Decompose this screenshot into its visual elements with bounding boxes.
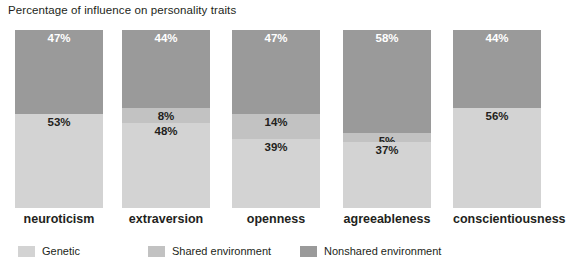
bar-segment-shared[interactable]: 14% (232, 114, 320, 139)
bar-group[interactable]: 47%14%39% (232, 30, 320, 208)
chart-figure: Percentage of influence on personality t… (0, 0, 581, 273)
segment-value-label: 58% (343, 32, 431, 45)
bar-segment-nonshared[interactable]: 58% (343, 30, 431, 133)
legend-label: Nonshared environment (324, 245, 441, 257)
bar-segment-shared[interactable]: 8% (122, 108, 210, 122)
segment-value-label: 56% (453, 110, 541, 123)
chart-legend: GeneticShared environmentNonshared envir… (0, 243, 581, 263)
bar-segment-genetic[interactable]: 56% (453, 108, 541, 208)
category-label-openness: openness (232, 212, 320, 226)
bar-segment-nonshared[interactable]: 47% (232, 30, 320, 114)
bar-segment-genetic[interactable]: 37% (343, 142, 431, 208)
segment-value-label: 47% (232, 32, 320, 45)
chart-title: Percentage of influence on personality t… (8, 4, 236, 16)
bar-segment-genetic[interactable]: 48% (122, 123, 210, 208)
segment-value-label: 37% (343, 144, 431, 157)
segment-value-label: 39% (232, 141, 320, 154)
segment-value-label: 44% (122, 32, 210, 45)
bar-stack: 47%53% (15, 30, 103, 208)
category-label-extraversion: extraversion (122, 212, 210, 226)
legend-swatch-icon (18, 246, 35, 257)
legend-item[interactable]: Nonshared environment (300, 243, 441, 259)
category-label-conscientiousness: conscientiousness (453, 212, 541, 226)
bar-stack: 44%8%48% (122, 30, 210, 208)
plot-area: 47%53%44%8%48%47%14%39%58%5%37%44%56% (0, 30, 581, 208)
segment-value-label: 48% (122, 125, 210, 138)
bar-segment-shared[interactable]: 5% (343, 133, 431, 142)
bar-group[interactable]: 47%53% (15, 30, 103, 208)
legend-label: Shared environment (172, 245, 271, 257)
bar-segment-nonshared[interactable]: 47% (15, 30, 103, 114)
legend-label: Genetic (42, 245, 80, 257)
category-label-neuroticism: neuroticism (15, 212, 103, 226)
category-label-agreeableness: agreeableness (343, 212, 431, 226)
segment-value-label: 53% (15, 116, 103, 129)
bar-group[interactable]: 44%8%48% (122, 30, 210, 208)
legend-swatch-icon (300, 246, 317, 257)
segment-value-label: 14% (232, 116, 320, 129)
bar-segment-nonshared[interactable]: 44% (453, 30, 541, 108)
segment-value-label: 8% (122, 110, 210, 123)
legend-item[interactable]: Genetic (18, 243, 80, 259)
bar-segment-genetic[interactable]: 39% (232, 139, 320, 208)
bar-stack: 44%56% (453, 30, 541, 208)
bar-group[interactable]: 58%5%37% (343, 30, 431, 208)
segment-value-label: 44% (453, 32, 541, 45)
legend-item[interactable]: Shared environment (148, 243, 271, 259)
bar-group[interactable]: 44%56% (453, 30, 541, 208)
bar-segment-genetic[interactable]: 53% (15, 114, 103, 208)
legend-swatch-icon (148, 246, 165, 257)
segment-value-label: 47% (15, 32, 103, 45)
bar-segment-nonshared[interactable]: 44% (122, 30, 210, 108)
bar-stack: 58%5%37% (343, 30, 431, 208)
bar-stack: 47%14%39% (232, 30, 320, 208)
